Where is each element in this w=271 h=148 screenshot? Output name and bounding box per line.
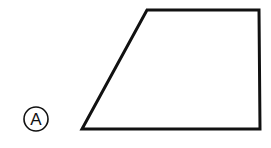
diagram-canvas: A xyxy=(0,0,271,148)
label-badge: A xyxy=(24,107,48,131)
figure-label: A xyxy=(30,110,42,129)
trapezoid-shape xyxy=(82,10,260,129)
